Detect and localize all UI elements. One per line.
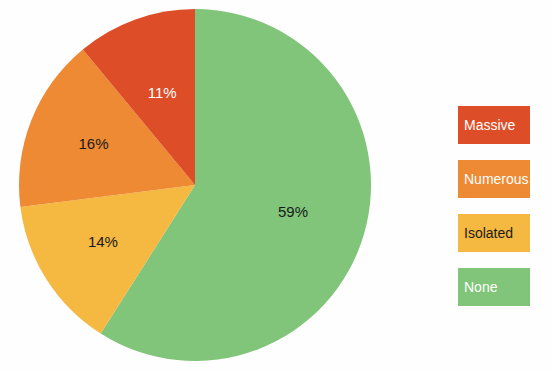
pie-label-massive: 11% (148, 84, 177, 101)
legend-item-none[interactable]: None (458, 268, 553, 306)
legend-label-none: None (464, 268, 497, 306)
legend-label-isolated: Isolated (464, 214, 513, 252)
pie-label-none: 59% (278, 203, 308, 220)
pie-chart: 59% 14% 16% 11% (0, 0, 420, 370)
legend-label-numerous: Numerous (464, 160, 529, 198)
chart-legend: Massive Numerous Isolated None (458, 106, 553, 311)
legend-item-isolated[interactable]: Isolated (458, 214, 553, 252)
pie-slices (19, 9, 371, 361)
legend-item-massive[interactable]: Massive (458, 106, 553, 144)
legend-label-massive: Massive (464, 106, 515, 144)
pie-label-numerous: 16% (78, 135, 108, 152)
pie-label-isolated: 14% (88, 233, 118, 250)
pie-chart-figure: 59% 14% 16% 11% Massive Numerous Isolate… (0, 0, 553, 370)
legend-item-numerous[interactable]: Numerous (458, 160, 553, 198)
